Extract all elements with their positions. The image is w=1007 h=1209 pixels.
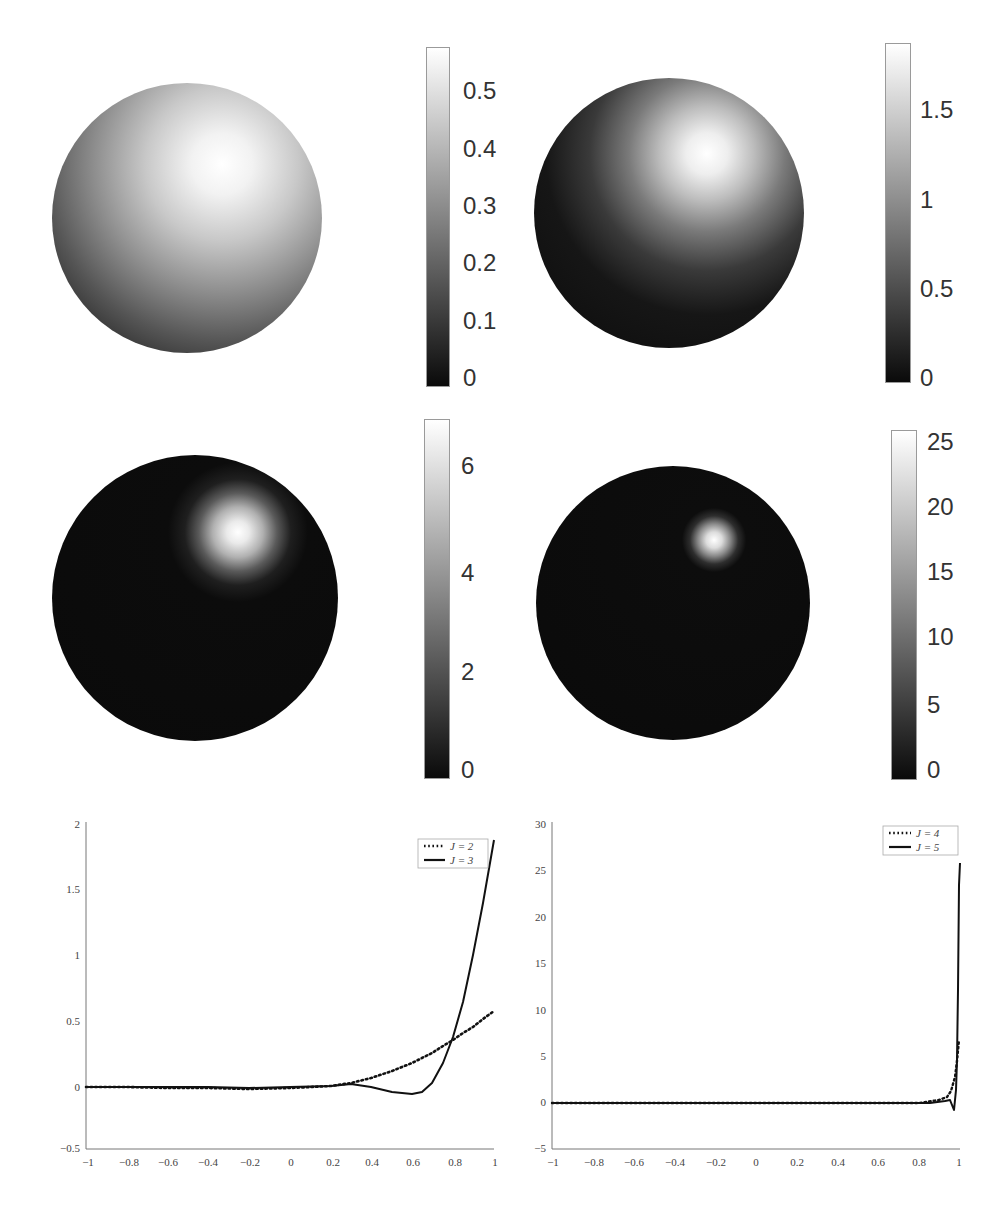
series-j5-curve bbox=[552, 863, 960, 1110]
x-tick: 0.4 bbox=[365, 1156, 379, 1168]
x-tick: 0.8 bbox=[448, 1156, 462, 1168]
legend-label-j5: J = 5 bbox=[916, 841, 940, 853]
y-tick: 0 bbox=[75, 1081, 81, 1093]
x-tick: 0 bbox=[753, 1156, 759, 1168]
series-j3-curve bbox=[86, 840, 494, 1094]
x-tick: −0.2 bbox=[706, 1156, 726, 1168]
x-tick: −0.4 bbox=[198, 1156, 218, 1168]
legend-left: J = 2 J = 3 bbox=[418, 839, 488, 868]
y-tick: 5 bbox=[541, 1050, 547, 1062]
x-tick: −0.6 bbox=[624, 1156, 644, 1168]
x-tick: 0.2 bbox=[326, 1156, 340, 1168]
y-tick: 0 bbox=[541, 1096, 547, 1108]
x-tick: 1 bbox=[492, 1156, 498, 1168]
y-tick: 30 bbox=[535, 818, 547, 830]
y-tick: 10 bbox=[535, 1004, 547, 1016]
x-tick: −0.2 bbox=[240, 1156, 260, 1168]
x-tick: 0 bbox=[288, 1156, 294, 1168]
line-plot-left: 2 1.5 1 0.5 0 −0.5 −1 −0.8 −0.6 −0.4 −0.… bbox=[0, 0, 1007, 1209]
legend-label-j3: J = 3 bbox=[450, 854, 474, 866]
x-tick: −0.8 bbox=[584, 1156, 604, 1168]
series-j4-curve bbox=[552, 1040, 959, 1103]
x-tick: 0.8 bbox=[912, 1156, 926, 1168]
x-tick: 0.6 bbox=[406, 1156, 420, 1168]
x-tick: 0.6 bbox=[871, 1156, 885, 1168]
y-tick: −0.5 bbox=[60, 1142, 80, 1154]
legend-right: J = 4 J = 5 bbox=[883, 826, 958, 855]
x-tick: −0.6 bbox=[158, 1156, 178, 1168]
y-tick: 1 bbox=[75, 949, 81, 961]
y-tick: 1.5 bbox=[66, 883, 80, 895]
y-tick: 25 bbox=[535, 864, 547, 876]
x-tick: 1 bbox=[956, 1156, 962, 1168]
y-tick: 15 bbox=[535, 957, 547, 969]
series-j2-curve bbox=[86, 1011, 494, 1089]
x-tick: −1 bbox=[82, 1156, 94, 1168]
legend-label-j2: J = 2 bbox=[450, 840, 474, 852]
legend-label-j4: J = 4 bbox=[916, 827, 940, 839]
x-tick: −0.8 bbox=[119, 1156, 139, 1168]
y-tick: 2 bbox=[75, 818, 81, 830]
x-tick: 0.4 bbox=[831, 1156, 845, 1168]
x-tick: 0.2 bbox=[790, 1156, 804, 1168]
y-tick: 20 bbox=[535, 911, 547, 923]
y-tick: 0.5 bbox=[66, 1015, 80, 1027]
x-tick: −1 bbox=[547, 1156, 559, 1168]
y-tick: −5 bbox=[534, 1142, 546, 1154]
x-tick: −0.4 bbox=[665, 1156, 685, 1168]
